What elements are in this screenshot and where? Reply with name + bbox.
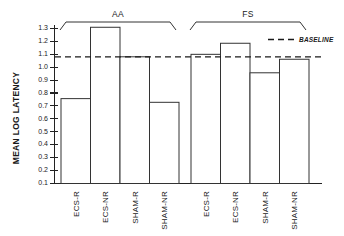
baseline-legend-label: BASELINE [299, 36, 334, 43]
x-axis-category-label: ECS-NR [101, 191, 110, 223]
x-axis-category-label: SHAM-R [261, 191, 270, 224]
y-tick-label: 1.1 [38, 50, 48, 57]
bar [61, 99, 91, 184]
x-axis-category-label: SHAM-NR [160, 191, 169, 230]
group-bracket-fs [190, 22, 306, 30]
y-tick-label: 0.5 [38, 128, 48, 135]
y-tick-label: 0.4 [38, 140, 48, 147]
bar [221, 43, 251, 183]
x-axis-category-label: ECS-NR [231, 191, 240, 223]
y-tick-label: 0.3 [38, 153, 48, 160]
y-tick-label: 1.2 [38, 37, 48, 44]
category-labels-layer: ECS-RECS-NRSHAM-RSHAM-NRECS-RECS-NRSHAM-… [72, 191, 300, 230]
y-tick-label: 0.7 [38, 102, 48, 109]
y-tick-label: 1.3 [38, 24, 48, 31]
y-tick-label: 0.8 [38, 89, 48, 96]
x-axis-category-label: SHAM-NR [290, 191, 299, 230]
x-axis-category-label: SHAM-R [131, 191, 140, 224]
group-label-aa: AA [112, 9, 124, 19]
y-tick-label: 0.6 [38, 115, 48, 122]
chart-figure: 1.3 1.2 1.1 1.0 0.9 0.8 0.7 0.6 0.5 0.4 … [0, 0, 344, 236]
y-axis-tick-labels: 1.3 1.2 1.1 1.0 0.9 0.8 0.7 0.6 0.5 0.4 … [38, 24, 48, 186]
bar [91, 27, 121, 183]
bar [150, 102, 180, 183]
bar [280, 59, 310, 183]
y-axis-title: MEAN LOG LATENCY [11, 72, 21, 165]
y-tick-label: 0.1 [38, 179, 48, 186]
x-axis-category-label: ECS-R [202, 191, 211, 217]
bar [250, 73, 280, 184]
y-tick-label: 0.9 [38, 76, 48, 83]
group-label-fs: FS [242, 9, 254, 19]
bars-layer [61, 27, 309, 183]
bar [120, 57, 150, 184]
y-tick-label: 1.0 [38, 63, 48, 70]
bar-chart: 1.3 1.2 1.1 1.0 0.9 0.8 0.7 0.6 0.5 0.4 … [0, 0, 344, 236]
x-axis-category-label: ECS-R [72, 191, 81, 217]
bar [191, 54, 221, 183]
y-tick-label: 0.2 [38, 166, 48, 173]
